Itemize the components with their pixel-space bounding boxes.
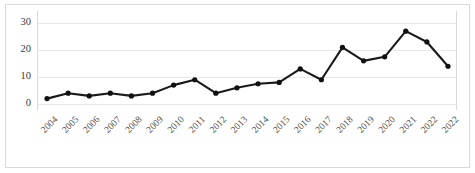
- x-axis-tick-label: 2014: [250, 114, 271, 135]
- data-point-marker: [171, 83, 176, 88]
- data-point-marker: [234, 85, 239, 90]
- x-axis-tick-label: 2005: [60, 114, 81, 135]
- x-axis-tick-label: 2018: [334, 114, 355, 135]
- x-axis-tick-label: 2013: [229, 114, 250, 135]
- data-point-marker: [44, 96, 49, 101]
- data-point-marker: [361, 58, 366, 63]
- x-axis-tick-label: 2006: [81, 114, 102, 135]
- data-point-marker: [424, 39, 429, 44]
- x-axis-tick-label: 2022: [440, 114, 461, 135]
- x-axis-tick-label: 2009: [144, 114, 165, 135]
- y-axis-tick-label: 30: [21, 16, 32, 27]
- line-chart: 0102030 20042005200620072008200920102011…: [0, 0, 475, 173]
- data-point-marker: [298, 66, 303, 71]
- data-point-marker: [150, 91, 155, 96]
- x-axis-tick-label: 2021: [398, 114, 419, 135]
- y-axis-tick-label: 20: [21, 43, 32, 54]
- x-axis-tick-label: 2004: [39, 114, 60, 135]
- x-axis-tick-label: 2016: [292, 114, 313, 135]
- x-axis-tick-labels: 2004200520062007200820092010201120122013…: [39, 114, 461, 135]
- y-axis-tick-label: 0: [26, 97, 31, 108]
- data-point-markers: [44, 29, 450, 102]
- data-series-line: [47, 31, 448, 98]
- data-point-marker: [87, 93, 92, 98]
- data-point-marker: [319, 77, 324, 82]
- x-axis-tick-label: 2010: [166, 114, 187, 135]
- series-polyline: [47, 31, 448, 98]
- data-point-marker: [213, 91, 218, 96]
- x-axis-tick-label: 2012: [208, 114, 229, 135]
- x-axis-tick-label: 2015: [271, 114, 292, 135]
- data-point-marker: [129, 93, 134, 98]
- y-axis-tick-labels: 0102030: [21, 16, 32, 108]
- x-axis-tick-label: 2020: [377, 114, 398, 135]
- data-point-marker: [340, 45, 345, 50]
- data-point-marker: [108, 91, 113, 96]
- gridlines: [37, 23, 456, 104]
- x-axis-tick-label: 2022: [419, 114, 440, 135]
- data-point-marker: [192, 77, 197, 82]
- chart-figure: 0102030 20042005200620072008200920102011…: [0, 0, 475, 173]
- data-point-marker: [66, 91, 71, 96]
- data-point-marker: [255, 81, 260, 86]
- data-point-marker: [277, 80, 282, 85]
- x-axis-tick-label: 2017: [313, 114, 334, 135]
- data-point-marker: [403, 29, 408, 34]
- x-axis-tick-label: 2008: [123, 114, 144, 135]
- plot-area-wrapper: 0102030 20042005200620072008200920102011…: [0, 0, 475, 173]
- data-point-marker: [445, 64, 450, 69]
- x-axis-tick-label: 2007: [102, 114, 123, 135]
- y-axis-tick-label: 10: [21, 70, 32, 81]
- x-axis-tick-label: 2019: [355, 114, 376, 135]
- x-axis-tick-label: 2011: [187, 114, 207, 134]
- data-point-marker: [382, 54, 387, 59]
